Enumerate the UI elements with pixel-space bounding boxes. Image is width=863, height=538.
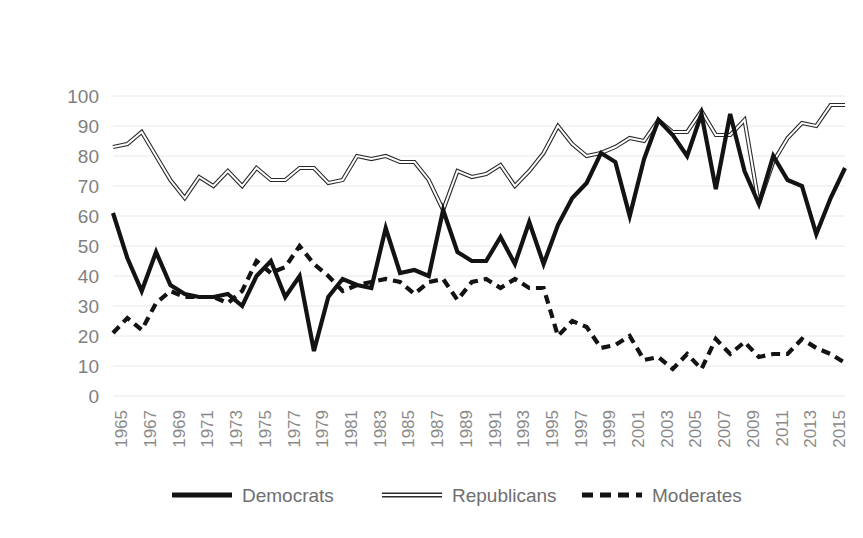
x-axis-tick-label: 1977 [285, 410, 304, 448]
x-axis-tick-label: 2009 [744, 410, 763, 448]
y-axis-tick-label: 100 [67, 86, 99, 107]
y-axis-tick-label: 30 [78, 296, 99, 317]
x-axis-tick-label: 1993 [514, 410, 533, 448]
x-axis-tick-label: 2015 [830, 410, 849, 448]
x-axis-tick-label: 1997 [572, 410, 591, 448]
y-axis-tick-label: 70 [78, 176, 99, 197]
x-axis-tick-label: 1973 [227, 410, 246, 448]
chart-container: 1009080706050403020100 19651967196919711… [0, 0, 863, 538]
y-axis-tick-label: 90 [78, 116, 99, 137]
y-axis-tick-label: 40 [78, 266, 99, 287]
x-axis-tick-label: 1975 [256, 410, 275, 448]
x-axis-tick-label: 1995 [543, 410, 562, 448]
x-axis-tick-label: 1967 [141, 410, 160, 448]
x-axis-tick-label: 1983 [371, 410, 390, 448]
y-axis-tick-label: 20 [78, 326, 99, 347]
x-axis-tick-label: 1969 [170, 410, 189, 448]
x-axis-tick-label: 1991 [486, 410, 505, 448]
line-chart: 1009080706050403020100 19651967196919711… [0, 0, 863, 538]
x-axis-tick-label: 2007 [715, 410, 734, 448]
x-axis-tick-label: 1981 [342, 410, 361, 448]
x-axis-tick-label: 2005 [686, 410, 705, 448]
y-axis-tick-label: 10 [78, 356, 99, 377]
x-axis-tick-label: 1965 [112, 410, 131, 448]
x-axis-tick-label: 1971 [198, 410, 217, 448]
x-axis-tick-label: 2013 [801, 410, 820, 448]
y-axis-tick-label: 80 [78, 146, 99, 167]
x-axis-tick-label: 2001 [629, 410, 648, 448]
x-axis-tick-label: 2011 [773, 410, 792, 447]
x-axis-tick-label: 1999 [600, 410, 619, 448]
y-axis-tick-label: 50 [78, 236, 99, 257]
x-axis-tick-label: 2003 [658, 410, 677, 448]
x-axis-tick-label: 1979 [313, 410, 332, 448]
y-axis-tick-label: 60 [78, 206, 99, 227]
chart-legend: DemocratsRepublicansModerates [172, 485, 742, 506]
x-axis-tick-label: 1989 [457, 410, 476, 448]
legend-label-rep: Republicans [452, 485, 557, 506]
legend-label-dem: Democrats [242, 485, 334, 506]
legend-label-mod: Moderates [652, 485, 742, 506]
y-axis-tick-label: 0 [88, 386, 99, 407]
x-axis-tick-label: 1985 [399, 410, 418, 448]
x-axis-tick-label: 1987 [428, 410, 447, 448]
